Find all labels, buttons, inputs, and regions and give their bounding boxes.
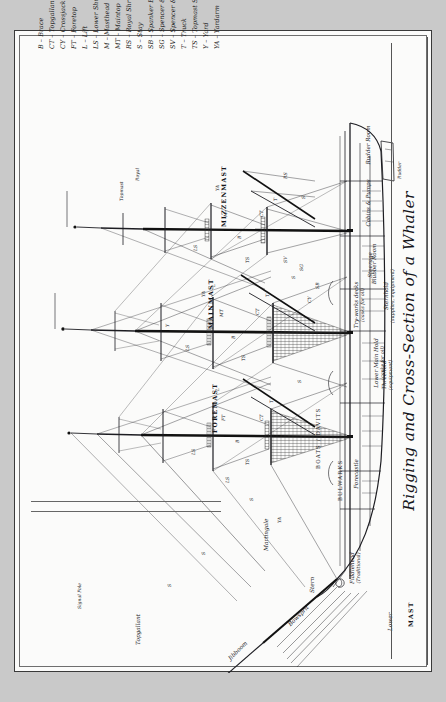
- diagram-page: MIZZENMAST MAINMAST FOREMAST MAST Lower …: [0, 0, 446, 702]
- code-s-bow: S: [201, 552, 206, 555]
- legend-text: L – Lift: [81, 26, 89, 49]
- legend-rules: [31, 49, 221, 519]
- legend-text: MT – Maintop: [114, 3, 122, 49]
- code-s-main: S: [291, 276, 296, 279]
- code-s-fore: S: [297, 380, 302, 383]
- legend-item-ft: FT – Foretop: [70, 7, 78, 49]
- code-ct-mizzen: CT: [259, 210, 264, 217]
- code-sv-main: SV: [283, 257, 288, 263]
- diagram-plate: MIZZENMAST MAINMAST FOREMAST MAST Lower …: [14, 30, 432, 672]
- legend-text: S – Stay: [136, 23, 144, 49]
- label-topgallant: Topgallant: [135, 614, 141, 645]
- code-s-bow-2: S: [167, 584, 172, 587]
- legend-text: FT – Foretop: [70, 7, 78, 49]
- legend-text: RS – Royal Shrouds: [125, 0, 133, 49]
- fiddlehead-sub: (Traditional): [356, 539, 362, 597]
- legend-item-s: S – Stay: [136, 23, 144, 49]
- code-ya-fore: YA: [277, 517, 282, 523]
- code-ts-mizzen: TS: [245, 257, 250, 263]
- title-rule-right: [427, 37, 428, 665]
- compartment-label: Blubber Room: [371, 244, 377, 285]
- page-title: Rigging and Cross-Section of a Whaler: [400, 191, 418, 511]
- code-b-fore: B: [235, 440, 240, 443]
- compartment-blubber-room: Blubber Room: [371, 239, 378, 289]
- legend-text: SV – Spencer & Spanker Vangs: [169, 0, 177, 49]
- compartment-forecastle: Forecastle: [353, 451, 360, 497]
- legend-item-ct: CT – Topgallant Crosstrees: [48, 0, 56, 49]
- code-t-fore: T: [269, 400, 274, 403]
- legend-text: SG – Spencer & Spanker Gaffs: [158, 0, 166, 49]
- legend-text: CY – Crossjack ('Crotchet') yard: [59, 0, 67, 49]
- abbreviation-legend: B – Brace CT – Topgallant Crosstrees CY …: [31, 49, 221, 519]
- legend-text: LS – Lower Shrouds: [92, 0, 100, 49]
- code-s-mizzen: S: [301, 196, 306, 199]
- legend-rule-bottom: [31, 511, 221, 512]
- compartment-rudder-room: Rudder Room: [365, 119, 372, 171]
- legend-text: B – Brace: [37, 18, 45, 49]
- label-signal-pole: Signal Pole: [77, 583, 82, 609]
- legend-item-b: B – Brace: [37, 18, 45, 49]
- label-martingale: Martingale: [263, 518, 269, 551]
- legend-text: M – Masthead (Lookout): [103, 0, 111, 49]
- code-t-mizzen: T: [273, 198, 278, 201]
- label-mizzenmast: MIZZENMAST: [220, 165, 227, 227]
- code-ts-fore: TS: [245, 459, 250, 465]
- title-rule-left: [391, 43, 392, 659]
- code-ct-main: CT: [255, 308, 260, 315]
- code-rs-mizzen: RS: [283, 172, 288, 179]
- legend-item-sg: SG – Spencer & Spanker Gaffs: [158, 0, 166, 49]
- label-boats-davits: BOATS / DAVITS: [315, 408, 321, 469]
- code-ts-main: TS: [241, 355, 246, 361]
- legend-item-sv: SV – Spencer & Spanker Vangs: [169, 0, 177, 49]
- legend-item-t: T – Truck: [180, 18, 188, 49]
- legend-text: TS – Topmast Shrouds: [191, 0, 199, 49]
- code-sg-main: SG: [299, 264, 304, 271]
- title-band: Rigging and Cross-Section of a Whaler: [389, 31, 429, 671]
- legend-item-m: M – Masthead (Lookout): [103, 0, 111, 49]
- code-ft-fore: FT: [221, 415, 226, 421]
- code-sb-main: SB: [315, 282, 320, 289]
- compartment-label: Forecastle: [353, 459, 359, 489]
- legend-item-sb: SB – Spanker Boom: [147, 0, 155, 49]
- compartment-label: Rudder Room: [365, 126, 371, 165]
- code-ct-fore: CT: [259, 414, 264, 421]
- code-m-mizzen: M: [223, 212, 228, 217]
- legend-item-ts: TS – Topmast Shrouds: [191, 0, 199, 49]
- label-bulwarks: BULWARKS: [337, 460, 343, 501]
- legend-text: SB – Spanker Boom: [147, 0, 155, 49]
- code-t-main: T: [265, 294, 270, 297]
- legend-text: CT – Topgallant Crosstrees: [48, 0, 56, 49]
- compartment-lower-main-hold-2: Lower Main Hold (casks for oil): [373, 323, 385, 403]
- label-fiddlehead: Fiddlehead (Traditional): [349, 539, 361, 597]
- legend-text: YA – Yardarm: [213, 5, 221, 49]
- code-cy-main: CY: [307, 296, 312, 303]
- legend-rule-top: [31, 501, 221, 502]
- legend-item-y: Y – Yard: [202, 22, 210, 49]
- legend-item-ls: LS – Lower Shrouds: [92, 0, 100, 49]
- code-s-fore-2: S: [249, 498, 254, 501]
- label-stern: Stern: [309, 577, 315, 593]
- compartment-sublabel: (casks for oil): [380, 323, 386, 403]
- legend-item-ya: YA – Yardarm: [213, 5, 221, 49]
- code-ls-fore-2: LS: [225, 477, 230, 483]
- legend-item-rs: RS – Royal Shrouds: [125, 0, 133, 49]
- compartment-sublabel: (casks for oil): [360, 273, 366, 337]
- legend-item-l: L – Lift: [81, 26, 89, 49]
- compartment-cabins-pumps: Cabins & Pumps: [365, 175, 372, 231]
- code-b-main: B: [231, 336, 236, 339]
- compartment-label: Cabins & Pumps: [365, 179, 371, 226]
- code-b-mizzen: B: [237, 236, 242, 239]
- legend-item-cy: CY – Crossjack ('Crotchet') yard: [59, 0, 67, 49]
- legend-text: T – Truck: [180, 18, 188, 49]
- compartment-try-works: Try-works decks (casks for oil): [353, 273, 365, 337]
- legend-item-mt: MT – Maintop: [114, 3, 122, 49]
- legend-text: Y – Yard: [202, 22, 210, 49]
